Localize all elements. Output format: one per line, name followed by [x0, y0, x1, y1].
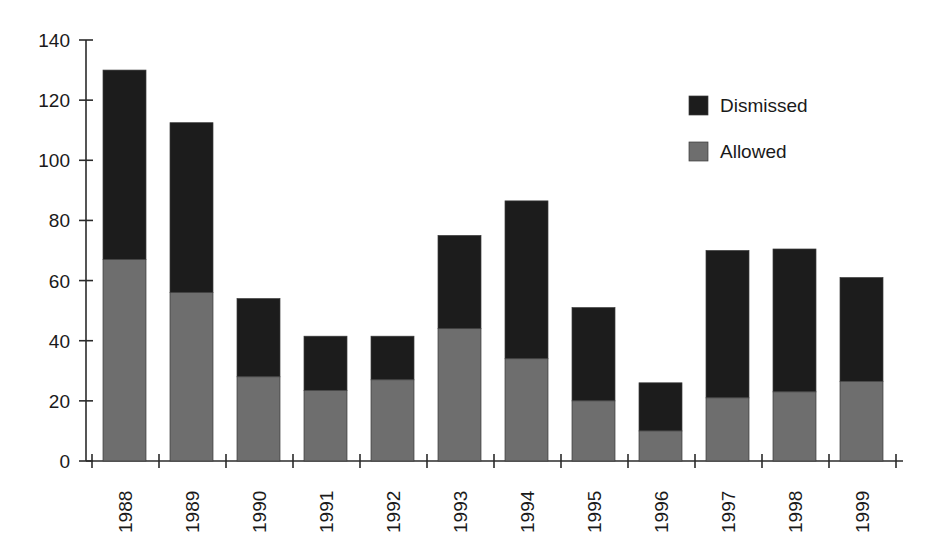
- bar-stack: [505, 201, 548, 461]
- bar-stack: [639, 383, 682, 461]
- bar-stack: [237, 299, 280, 461]
- bar-segment-dismissed: [505, 201, 548, 359]
- bar-segment-allowed: [505, 359, 548, 461]
- bar-stack: [103, 70, 146, 461]
- x-tick-label: 1999: [852, 491, 873, 533]
- bar-segment-allowed: [304, 390, 347, 461]
- bar-stack: [438, 235, 481, 461]
- x-tick-label: 1988: [115, 491, 136, 533]
- x-tick-label: 1998: [785, 491, 806, 533]
- y-tick-label: 60: [49, 271, 70, 292]
- legend-label: Dismissed: [720, 95, 808, 116]
- bar-segment-allowed: [840, 381, 883, 461]
- y-tick-label: 120: [38, 90, 70, 111]
- legend-swatch-dismissed: [689, 96, 708, 115]
- bar-stack: [773, 249, 816, 461]
- x-tick-label: 1990: [249, 491, 270, 533]
- bar-segment-allowed: [371, 380, 414, 461]
- bar-stack: [304, 336, 347, 461]
- stacked-bar-chart: 020406080100120140 198819891990199119921…: [0, 0, 930, 554]
- bar-stack: [840, 278, 883, 461]
- bar-segment-dismissed: [170, 123, 213, 293]
- y-tick-label: 0: [59, 451, 70, 472]
- x-tick-label: 1993: [450, 491, 471, 533]
- bar-segment-dismissed: [572, 308, 615, 401]
- bar-segment-dismissed: [639, 383, 682, 431]
- y-tick-label: 40: [49, 331, 70, 352]
- x-tick-label: 1995: [584, 491, 605, 533]
- y-tick-label: 80: [49, 210, 70, 231]
- bar-segment-allowed: [639, 431, 682, 461]
- legend-label: Allowed: [720, 141, 787, 162]
- bar-segment-dismissed: [840, 278, 883, 382]
- bar-segment-dismissed: [103, 70, 146, 259]
- legend-swatch-allowed: [689, 142, 708, 161]
- bar-stack: [706, 251, 749, 462]
- bar-segment-allowed: [237, 377, 280, 461]
- bar-segment-dismissed: [773, 249, 816, 392]
- x-tick-label: 1992: [383, 491, 404, 533]
- y-tick-label: 140: [38, 30, 70, 51]
- x-tick-label: 1994: [517, 490, 538, 533]
- bar-segment-allowed: [572, 401, 615, 461]
- bar-segment-dismissed: [706, 251, 749, 398]
- y-tick-label: 100: [38, 150, 70, 171]
- x-tick-label: 1991: [316, 491, 337, 533]
- bar-segment-allowed: [170, 293, 213, 461]
- bar-stack: [170, 123, 213, 461]
- bar-segment-dismissed: [371, 336, 414, 380]
- x-tick-label: 1989: [182, 491, 203, 533]
- bar-segment-allowed: [706, 398, 749, 461]
- bar-segment-allowed: [773, 392, 816, 461]
- x-tick-label: 1996: [651, 491, 672, 533]
- bar-segment-allowed: [103, 260, 146, 461]
- bar-segment-dismissed: [304, 336, 347, 390]
- bar-stack: [371, 336, 414, 461]
- bar-segment-dismissed: [237, 299, 280, 377]
- chart-canvas: 020406080100120140 198819891990199119921…: [0, 0, 930, 554]
- bar-segment-allowed: [438, 329, 481, 461]
- y-tick-label: 20: [49, 391, 70, 412]
- bar-stack: [572, 308, 615, 461]
- x-tick-label: 1997: [718, 491, 739, 533]
- bar-segment-dismissed: [438, 235, 481, 328]
